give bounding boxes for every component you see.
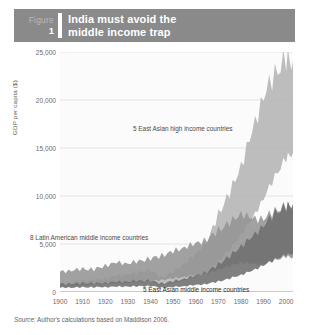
chart-container: GDP per capita ($) 05,00010,00015,00020,… [0,52,309,312]
x-tick-1940: 1940 [143,298,158,305]
figure-title-line-1: India must avoid the [68,13,295,26]
x-tick-1910: 1910 [75,298,90,305]
source-prefix: Source: [14,316,36,323]
y-axis-title: GDP per capita ($) [11,68,18,148]
y-tick-15000: 15,000 [20,145,56,152]
figure-label-word: Figure [29,15,54,25]
x-tick-1990: 1990 [256,298,271,305]
y-tick-5000: 5,000 [20,241,56,248]
x-tick-1970: 1970 [211,298,226,305]
annotation-high-income: 5 East Asian high income countries [133,125,232,132]
figure-title-divider [58,13,62,38]
y-tick-0: 0 [20,289,56,296]
x-tick-1950: 1950 [166,298,181,305]
annotation-east-asia-middle: 5 East Asian middle income countries [143,286,249,293]
x-tick-1980: 1980 [234,298,249,305]
x-tick-1930: 1930 [121,298,136,305]
y-tick-20000: 20,000 [20,97,56,104]
x-axis-tick-labels: 1900191019201930194019501960197019801990… [60,52,293,312]
figure-number-box: Figure 1 [14,9,58,42]
x-tick-1900: 1900 [53,298,68,305]
source-text: Author's calculations based on Maddison … [37,316,169,323]
figure-title-line-2: middle income trap [68,26,295,39]
figure-title: India must avoid the middle income trap [68,9,295,42]
annotation-latin-america: 8 Latin American middle income countries [30,234,148,241]
figure-number: 1 [49,25,54,36]
x-tick-1960: 1960 [188,298,203,305]
y-tick-25000: 25,000 [20,49,56,56]
x-tick-1920: 1920 [98,298,113,305]
figure-header-banner: Figure 1 India must avoid the middle inc… [14,9,295,42]
x-tick-2000: 2000 [279,298,294,305]
source-note: Source: Author's calculations based on M… [14,316,169,323]
y-tick-10000: 10,000 [20,193,56,200]
y-axis-tick-labels: 05,00010,00015,00020,00025,000 [20,52,56,292]
